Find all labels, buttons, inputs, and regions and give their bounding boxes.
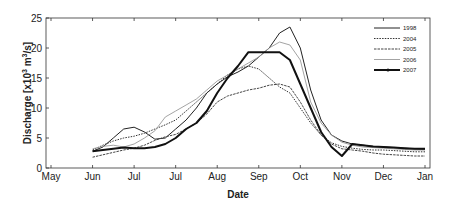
x-axis-ticks: MayJunJulJulAugSepOctNovDecJan [42,18,434,182]
x-tick-label: May [42,171,61,182]
y-tick-label: 5 [36,133,42,144]
legend-label: 2006 [403,57,417,63]
x-tick-label: Oct [293,171,309,182]
legend-label: 1998 [403,25,417,31]
y-tick-label: 25 [31,13,43,24]
legend-label: 2007 [403,67,417,73]
y-axis-label: Discharge [x103 m3/s] [21,42,33,144]
x-tick-label: Nov [333,171,351,182]
discharge-chart: 0510152025 MayJunJulJulAugSepOctNovDecJa… [0,0,453,206]
legend-label: 2004 [403,36,417,42]
x-tick-label: Aug [208,171,226,182]
legend: 19982004200520062007 [374,25,417,73]
x-tick-label: Dec [375,171,393,182]
series-line-1998 [93,27,425,151]
x-tick-label: Jul [169,171,182,182]
x-tick-label: Jan [417,171,433,182]
x-tick-label: Sep [250,171,268,182]
legend-label: 2005 [403,46,417,52]
data-series [93,27,425,157]
x-tick-label: Jul [128,171,141,182]
x-axis-label: Date [227,189,249,200]
series-line-2007 [93,52,425,156]
x-tick-label: Jun [84,171,100,182]
